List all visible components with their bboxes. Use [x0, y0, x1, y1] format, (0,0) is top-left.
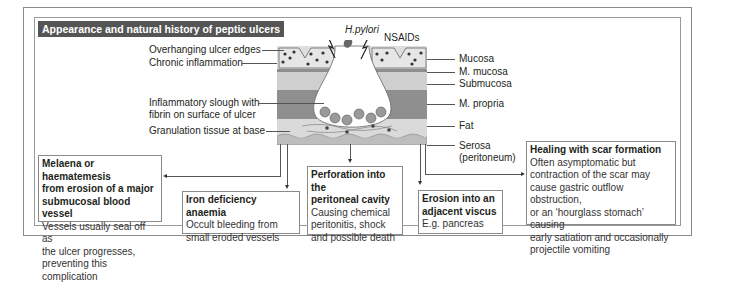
leader-line: [427, 145, 455, 146]
hpylori-label: H.pylori: [345, 24, 379, 36]
layer-label-m-mucosa: M. mucosa: [459, 66, 508, 78]
connector-line: [280, 144, 281, 176]
leader-line: [266, 131, 290, 132]
arrow-down-icon: [285, 185, 289, 189]
layer-label-submucosa: Submucosa: [459, 78, 512, 90]
connector-line: [166, 176, 281, 177]
complication-healing-scar: Healing with scar formation Often asympt…: [526, 141, 676, 225]
layer-label-mucosa: Mucosa: [459, 53, 494, 65]
figure-title: Appearance and natural history of peptic…: [38, 21, 284, 37]
nsaids-label: NSAIDs: [384, 32, 420, 44]
connector-line: [425, 174, 522, 175]
box-body: Occult bleeding from: [186, 219, 296, 232]
label-granulation: Granulation tissue at base: [149, 125, 265, 137]
box-body: early satiation and occasionally: [530, 232, 672, 245]
box-heading: Erosion into an: [422, 193, 499, 206]
box-body: cause gastric outflow obstruction,: [530, 182, 672, 207]
layer-label-serosa: Serosa: [459, 140, 491, 152]
box-body: the ulcer progresses,: [42, 246, 158, 259]
box-body: Often asymptomatic but: [530, 157, 672, 170]
box-heading: Perforation into the: [311, 169, 399, 194]
box-body: small eroded vessels: [186, 232, 296, 245]
box-heading: Healing with scar formation: [530, 144, 672, 157]
connector-line: [425, 144, 426, 174]
leader-line: [242, 63, 277, 64]
connector-line: [350, 144, 351, 160]
leader-line: [258, 103, 324, 104]
box-heading: submucosal blood vessel: [42, 196, 158, 221]
connector-line: [287, 144, 288, 186]
label-slough-2: fibrin on surface of ulcer: [149, 109, 256, 121]
box-heading: from erosion of a major: [42, 183, 158, 196]
complication-perforation: Perforation into the peritoneal cavity C…: [307, 166, 403, 235]
layer-label-fat: Fat: [459, 120, 473, 132]
arrow-left-icon: [163, 174, 167, 178]
leader-line: [427, 59, 455, 60]
box-heading: adjacent viscus: [422, 206, 499, 219]
label-slough-1: Inflammatory slough with: [149, 97, 260, 109]
connector-line: [420, 144, 421, 182]
complication-erosion-viscus: Erosion into an adjacent viscus E.g. pan…: [418, 190, 503, 234]
layer-label-m-propria: M. propria: [459, 98, 504, 110]
leader-line: [427, 72, 455, 73]
arrow-down-icon: [348, 159, 352, 163]
box-body: peritonitis, shock: [311, 219, 399, 232]
box-body: projectile vomiting: [530, 244, 672, 257]
box-body: and possible death: [311, 232, 399, 245]
arrow-right-icon: [521, 172, 525, 176]
complication-melaena: Melaena or haematemesis from erosion of …: [38, 155, 162, 222]
box-body: Vessels usually seal off as: [42, 221, 158, 246]
box-body: E.g. pancreas: [422, 218, 499, 231]
complication-iron-deficiency: Iron deficiency anaemia Occult bleeding …: [182, 191, 300, 234]
leader-line: [427, 126, 455, 127]
box-body: Causing chemical: [311, 207, 399, 220]
layer-label-peritoneum: (peritoneum): [459, 152, 516, 164]
box-body: contraction of the scar may: [530, 169, 672, 182]
box-body: preventing this complication: [42, 258, 158, 283]
tissue-layers-illustration: [277, 40, 427, 145]
leader-line: [427, 104, 455, 105]
box-body: or an ‘hourglass stomach’ causing: [530, 207, 672, 232]
box-heading: Iron deficiency anaemia: [186, 194, 296, 219]
arrow-down-icon: [418, 181, 422, 185]
box-heading: Melaena or haematemesis: [42, 158, 158, 183]
leader-line: [427, 84, 455, 85]
label-chronic-inflammation: Chronic inflammation: [149, 57, 243, 69]
ulcer-diagram: [277, 40, 427, 145]
box-heading: peritoneal cavity: [311, 194, 399, 207]
leader-line: [262, 50, 284, 51]
label-overhanging-edges: Overhanging ulcer edges: [149, 44, 261, 56]
